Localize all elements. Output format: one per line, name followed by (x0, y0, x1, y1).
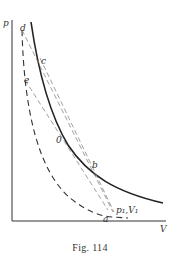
point-c-label: c (41, 56, 46, 66)
figure-caption: Fig. 114 (72, 242, 107, 253)
point-d-label: d (20, 23, 26, 33)
point-p1v1-label: p₁,V₁ (116, 205, 138, 215)
line-c-p1 (40, 58, 114, 212)
x-axis-label: V (160, 224, 168, 234)
pv-diagram: p V d c e 0 b a p₁,V₁ Fig. 114 (0, 0, 180, 257)
y-axis-label: p (3, 18, 9, 28)
point-e-label: e (24, 75, 29, 85)
point-a-label: a (103, 214, 108, 224)
line-e-b (25, 80, 108, 210)
point-b-label: b (92, 160, 98, 170)
point-0-label: 0 (56, 135, 62, 145)
line-d-p1 (22, 30, 113, 212)
